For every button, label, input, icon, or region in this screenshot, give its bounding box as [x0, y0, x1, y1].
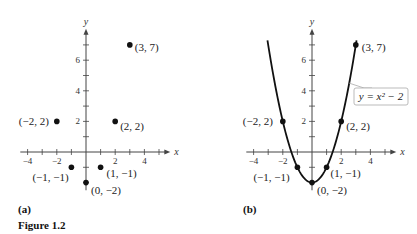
data-point [280, 119, 286, 125]
y-tick-label: 6 [302, 55, 307, 65]
callout-pointer [349, 83, 372, 88]
x-tick-label: 2 [339, 156, 344, 166]
y-tick-label: 4 [302, 86, 307, 96]
point-label: (−2, 2) [243, 115, 273, 128]
x-tick-label: −2 [52, 156, 62, 166]
x-axis-label: x [399, 146, 405, 157]
point-label: (1, −1) [331, 167, 361, 180]
point-label: (3, 7) [135, 41, 159, 54]
data-point [127, 42, 133, 48]
x-tick-label: −2 [278, 156, 288, 166]
data-point [295, 165, 301, 171]
data-point [98, 165, 104, 171]
point-label: (3, 7) [362, 41, 386, 54]
point-label: (0, −2) [317, 184, 347, 197]
point-label: (1, −1) [107, 167, 137, 180]
panel-a-caption: (a) [18, 203, 31, 215]
data-point [83, 180, 89, 186]
x-axis-label: x [173, 146, 179, 157]
x-axis-arrow [390, 150, 396, 155]
x-tick-label: 2 [113, 156, 118, 166]
x-tick-label: 4 [368, 156, 373, 166]
point-label: (−2, 2) [19, 115, 49, 128]
point-label: (0, −2) [91, 184, 121, 197]
data-point [69, 165, 75, 171]
curve-label: y = x² − 2 [358, 90, 404, 102]
data-point [309, 180, 315, 186]
data-point [353, 42, 359, 48]
x-tick-label: −4 [23, 156, 33, 166]
y-axis-label: y [309, 16, 315, 27]
y-tick-label: 6 [76, 55, 81, 65]
data-point [112, 119, 118, 125]
point-label: (−1, −1) [253, 171, 290, 184]
y-tick-label: 4 [76, 86, 81, 96]
x-tick-label: −4 [249, 156, 259, 166]
data-point [338, 119, 344, 125]
point-label: (2, 2) [120, 120, 144, 133]
y-tick-label: 2 [76, 116, 81, 126]
y-axis-label: y [83, 16, 89, 27]
point-label: (2, 2) [346, 120, 370, 133]
panel-a: −4−224246xy(−2, 2)(−1, −1)(0, −2)(1, −1)… [19, 16, 180, 197]
x-tick-label: 4 [142, 156, 147, 166]
data-point [324, 165, 330, 171]
y-axis-arrow [310, 29, 315, 35]
y-tick-label: 2 [302, 116, 307, 126]
point-label: (−1, −1) [32, 171, 69, 184]
panel-b-caption: (b) [243, 203, 256, 215]
x-axis-arrow [164, 150, 170, 155]
figure-caption: Figure 1.2 [18, 219, 65, 231]
figure-canvas: −4−224246xy(−2, 2)(−1, −1)(0, −2)(1, −1)… [0, 0, 417, 234]
data-point [54, 119, 60, 125]
y-axis-arrow [84, 29, 89, 35]
panel-b: −4−224246xyy = x² − 2(−2, 2)(−1, −1)(0, … [243, 16, 408, 197]
